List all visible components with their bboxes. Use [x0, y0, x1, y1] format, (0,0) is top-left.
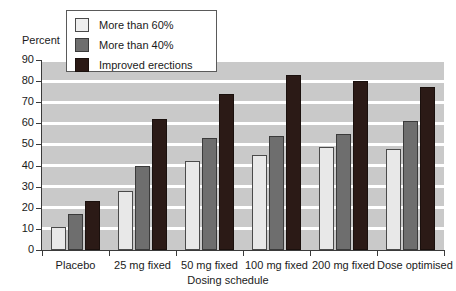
gridline — [42, 206, 444, 209]
bar — [353, 81, 368, 250]
bar — [202, 138, 217, 250]
x-tick-label: 200 mg fixed — [310, 259, 377, 271]
y-tick-mark — [36, 144, 42, 145]
y-tick-mark — [36, 166, 42, 167]
gridline — [42, 164, 444, 167]
bar — [152, 119, 167, 250]
y-tick-label: 0 — [28, 244, 34, 255]
y-tick-label: 80 — [22, 75, 34, 86]
bar — [420, 87, 435, 250]
y-tick-mark — [36, 208, 42, 209]
bar — [51, 227, 66, 250]
x-tick-label: Placebo — [42, 259, 109, 271]
y-tick-label: 60 — [22, 117, 34, 128]
legend-item-label: More than 40% — [99, 39, 174, 51]
bar — [135, 166, 150, 250]
x-tick-mark — [176, 250, 177, 256]
legend-item-label: Improved erections — [99, 59, 193, 71]
y-tick-label: 40 — [22, 160, 34, 171]
y-tick-mark — [36, 187, 42, 188]
y-tick-mark — [36, 102, 42, 103]
light-gray-swatch — [75, 18, 89, 32]
y-tick-label: 50 — [22, 138, 34, 149]
gridline — [42, 185, 444, 188]
bar — [252, 155, 267, 250]
plot-area — [42, 60, 444, 250]
gridline — [42, 101, 444, 104]
x-tick-mark — [42, 250, 43, 256]
y-axis-line — [41, 60, 42, 251]
y-tick-label: 90 — [22, 54, 34, 65]
gridline — [42, 143, 444, 146]
x-tick-mark — [377, 250, 378, 256]
bar — [336, 134, 351, 250]
x-tick-mark — [310, 250, 311, 256]
y-tick-label: 10 — [22, 223, 34, 234]
bar — [219, 94, 234, 250]
bar — [269, 136, 284, 250]
bar — [118, 191, 133, 250]
bar — [85, 201, 100, 250]
legend: More than 60%More than 40%Improved erect… — [66, 10, 217, 72]
dark-brown-swatch — [75, 58, 89, 72]
x-tick-label: Dose optimised — [377, 259, 444, 271]
x-tick-label: 25 mg fixed — [109, 259, 176, 271]
x-tick-mark — [444, 250, 445, 256]
y-tick-label: 70 — [22, 96, 34, 107]
legend-item-label: More than 60% — [99, 19, 174, 31]
x-axis-title: Dosing schedule — [0, 274, 456, 286]
gridline — [42, 122, 444, 125]
y-tick-label: 30 — [22, 181, 34, 192]
y-tick-mark — [36, 60, 42, 61]
y-tick-label: 20 — [22, 202, 34, 213]
bar — [319, 147, 334, 250]
x-tick-label: 100 mg fixed — [243, 259, 310, 271]
bar — [386, 149, 401, 250]
x-tick-label: 50 mg fixed — [176, 259, 243, 271]
y-axis-labels: 9080706050403020100 — [0, 0, 34, 291]
gridline — [42, 227, 444, 230]
bar — [403, 121, 418, 250]
x-tick-mark — [109, 250, 110, 256]
y-tick-mark — [36, 81, 42, 82]
x-tick-mark — [243, 250, 244, 256]
bar — [286, 75, 301, 250]
gridline — [42, 80, 444, 83]
bar — [185, 161, 200, 250]
y-tick-mark — [36, 229, 42, 230]
medium-gray-swatch — [75, 38, 89, 52]
bar — [68, 214, 83, 250]
y-tick-mark — [36, 123, 42, 124]
bar-chart: Percent 9080706050403020100 Placebo25 mg… — [0, 0, 456, 291]
